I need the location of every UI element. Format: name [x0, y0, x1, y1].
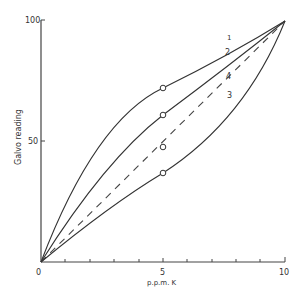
label-curve-3: 3 [227, 91, 232, 100]
label-curve-1: 1 [227, 34, 231, 42]
x-axis-title: p.p.m. K [147, 279, 177, 287]
label-curve-2: 2 [225, 48, 230, 57]
x-ticks [65, 257, 285, 262]
curve-4-dashed [41, 21, 285, 262]
y-label-50: 50 [28, 137, 38, 146]
y-label-100: 100 [25, 16, 40, 25]
y-axis-title: Galvo reading [14, 109, 23, 165]
x-label-10: 10 [279, 268, 289, 277]
x-label-5: 5 [160, 268, 165, 277]
circle-markers [160, 85, 166, 176]
x-label-0: 0 [36, 268, 41, 277]
label-curve-4: 4 [226, 72, 231, 81]
chart: 1 2 4 3 100 50 0 5 10 p.p.m. K Galvo rea… [0, 0, 304, 297]
